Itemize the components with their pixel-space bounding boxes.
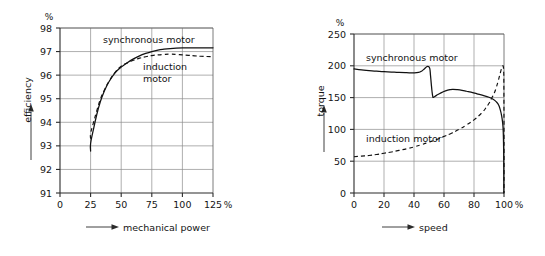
efficiency-ytick-96: 96 bbox=[40, 70, 52, 81]
torque-x-arrow-head-icon bbox=[408, 224, 416, 230]
torque-label-synchronous-motor: synchronous motor bbox=[366, 52, 458, 63]
torque-x-unit: % bbox=[515, 200, 524, 210]
efficiency-label-synchronous-motor: synchronous motor bbox=[103, 34, 195, 45]
efficiency-ytick-92: 92 bbox=[40, 164, 52, 175]
efficiency-xtick-125: 125 bbox=[204, 199, 222, 210]
torque-y-axis-title: torque bbox=[315, 85, 326, 116]
efficiency-label-induction-motor-line1: induction bbox=[143, 61, 187, 72]
torque-xtick-40: 40 bbox=[408, 199, 420, 210]
torque-xtick-0: 0 bbox=[351, 199, 357, 210]
torque-ytick-0: 0 bbox=[340, 188, 346, 199]
efficiency-ytick-94: 94 bbox=[40, 117, 52, 128]
efficiency-x-axis-title-group: mechanical power bbox=[86, 222, 210, 233]
efficiency-y-unit: % bbox=[45, 12, 54, 22]
efficiency-xtick-50: 50 bbox=[115, 199, 127, 210]
torque-y-unit: % bbox=[336, 18, 345, 28]
efficiency-y-axis-title: efficiency bbox=[22, 77, 33, 123]
torque-y-axis-title-group: torque bbox=[315, 85, 327, 152]
torque-x-ticks bbox=[354, 193, 504, 197]
torque-ytick-150: 150 bbox=[328, 92, 346, 103]
torque-x-axis-title: speed bbox=[419, 222, 448, 233]
efficiency-ytick-91: 91 bbox=[40, 188, 52, 199]
torque-ytick-100: 100 bbox=[328, 124, 346, 135]
torque-xtick-80: 80 bbox=[468, 199, 480, 210]
efficiency-ytick-97: 97 bbox=[40, 46, 52, 57]
efficiency-xtick-100: 100 bbox=[173, 199, 191, 210]
torque-xtick-100: 100 bbox=[495, 199, 513, 210]
efficiency-xtick-0: 0 bbox=[57, 199, 63, 210]
efficiency-ytick-95: 95 bbox=[40, 93, 52, 104]
torque-ytick-250: 250 bbox=[328, 29, 346, 40]
efficiency-x-axis-title: mechanical power bbox=[123, 222, 210, 233]
efficiency-label-induction-motor-line2: motor bbox=[143, 73, 172, 84]
efficiency-ytick-98: 98 bbox=[40, 23, 52, 34]
torque-chart-panel: % 250 200 150 100 50 0 0 20 40 60 80 100… bbox=[272, 0, 545, 256]
torque-x-axis-title-group: speed bbox=[382, 222, 448, 233]
torque-y-ticks bbox=[350, 34, 354, 193]
torque-label-induction-motor: induction motor bbox=[366, 133, 442, 144]
motor-characteristics-figure: % 98 97 96 95 94 93 92 91 0 25 50 75 100… bbox=[0, 0, 545, 256]
efficiency-grid-vertical bbox=[91, 28, 213, 193]
efficiency-y-ticks bbox=[56, 28, 60, 193]
efficiency-chart-panel: % 98 97 96 95 94 93 92 91 0 25 50 75 100… bbox=[0, 0, 272, 256]
efficiency-x-unit: % bbox=[224, 200, 233, 210]
efficiency-xtick-25: 25 bbox=[85, 199, 97, 210]
torque-xtick-20: 20 bbox=[378, 199, 390, 210]
efficiency-ytick-93: 93 bbox=[40, 140, 52, 151]
torque-ytick-200: 200 bbox=[328, 60, 346, 71]
efficiency-x-arrow-head-icon bbox=[112, 224, 120, 230]
efficiency-grid-horizontal bbox=[60, 28, 213, 169]
torque-ytick-50: 50 bbox=[334, 156, 346, 167]
efficiency-y-axis-title-group: efficiency bbox=[22, 77, 34, 160]
efficiency-xtick-75: 75 bbox=[146, 199, 158, 210]
torque-xtick-60: 60 bbox=[438, 199, 450, 210]
torque-chart-svg: % 250 200 150 100 50 0 0 20 40 60 80 100… bbox=[272, 0, 545, 256]
efficiency-chart-svg: % 98 97 96 95 94 93 92 91 0 25 50 75 100… bbox=[0, 0, 272, 256]
efficiency-x-ticks bbox=[60, 193, 213, 197]
